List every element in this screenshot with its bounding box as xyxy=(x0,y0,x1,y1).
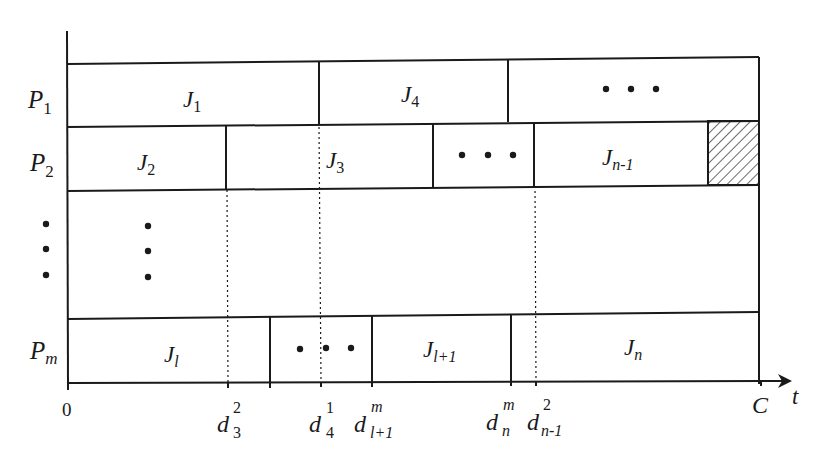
svg-text:d: d xyxy=(309,411,322,437)
job-label-jl1: Jl+1 xyxy=(423,337,456,365)
axis-origin-label: 0 xyxy=(62,399,72,420)
deadline-dn1-line xyxy=(535,186,536,381)
svg-text:n: n xyxy=(502,422,510,439)
svg-text:d: d xyxy=(217,411,230,437)
svg-text:4: 4 xyxy=(326,424,334,441)
svg-text:2: 2 xyxy=(543,396,551,413)
deadline-d4-line xyxy=(319,127,321,382)
job-label-jn-1: Jn-1 xyxy=(602,145,634,173)
tick-label-dl1-m: d m l+1 xyxy=(354,398,393,441)
job-label-j3: J3 xyxy=(326,148,344,176)
svg-text:m: m xyxy=(371,398,383,415)
y-axis xyxy=(67,31,68,384)
tick-label-d3-2: d 2 3 xyxy=(217,399,241,441)
tick-label-dn-m: d m n xyxy=(486,396,515,439)
tick-label-dn1-2: d 2 n-1 xyxy=(527,396,562,439)
idle-hatched-block xyxy=(708,121,759,185)
svg-text:d: d xyxy=(527,409,540,435)
schedule-diagram: P1 P2 Pm J1 J4 J2 J3 Jn-1 Jl Jl+1 Jn 0 C… xyxy=(0,0,829,454)
job-label-jl: Jl xyxy=(164,342,179,370)
job-label-j4: J4 xyxy=(401,82,419,110)
svg-text:d: d xyxy=(486,409,499,435)
svg-text:3: 3 xyxy=(233,424,241,441)
axis-end-label: C xyxy=(752,392,769,418)
svg-text:1: 1 xyxy=(326,399,334,416)
machine-label-p1: P1 xyxy=(27,86,52,118)
machines-ellipsis xyxy=(43,221,151,280)
svg-text:2: 2 xyxy=(233,399,241,416)
tick-label-d4-1: d 1 4 xyxy=(309,399,334,441)
job-label-j1: J1 xyxy=(183,87,201,115)
job-label-j2: J2 xyxy=(137,150,155,178)
axis-variable-label: t xyxy=(792,384,799,409)
machine-label-p2: P2 xyxy=(29,149,54,181)
svg-text:m: m xyxy=(503,396,515,413)
svg-text:n-1: n-1 xyxy=(541,422,562,439)
machine-row-p2 xyxy=(68,121,759,191)
deadline-d3-line xyxy=(227,190,228,383)
svg-text:l+1: l+1 xyxy=(370,424,393,441)
job-label-jn: Jn xyxy=(624,335,642,363)
svg-text:d: d xyxy=(354,411,367,437)
machine-label-pm: Pm xyxy=(29,337,58,368)
time-axis xyxy=(68,381,785,383)
